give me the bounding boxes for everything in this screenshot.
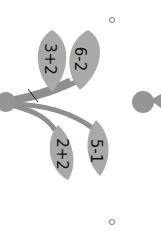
branch-illustration [0,0,161,231]
leaf-expression-2: 6-2 [71,47,89,72]
leaf-expression-3: 2+2 [53,138,71,170]
decorative-dot [109,219,115,225]
leaf-expression-1: 3+2 [41,43,59,75]
leaf-expression-4: 5-1 [87,139,105,164]
decorative-dot [109,17,115,23]
